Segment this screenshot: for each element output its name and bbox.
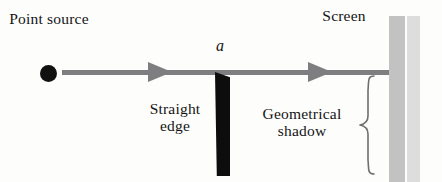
point-source-dot — [40, 65, 57, 82]
screen-bar-far — [407, 16, 420, 182]
straight-edge-diffraction-diagram: Point source a Straight edge Geometrical… — [0, 0, 442, 182]
geometrical-shadow-label: Geometrical shadow — [243, 106, 361, 139]
straight-edge-obstacle — [215, 72, 230, 176]
aperture-symbol-label: a — [203, 38, 237, 54]
shadow-extent-brace — [356, 74, 376, 176]
screen-label: Screen — [306, 8, 382, 24]
screen-bar-near — [389, 16, 405, 182]
straight-edge-label: Straight edge — [133, 101, 217, 134]
point-source-label: Point source — [8, 11, 90, 28]
light-ray-line — [62, 70, 399, 75]
ray-direction-arrow-icon — [308, 62, 332, 82]
ray-direction-arrow-icon — [148, 62, 172, 82]
